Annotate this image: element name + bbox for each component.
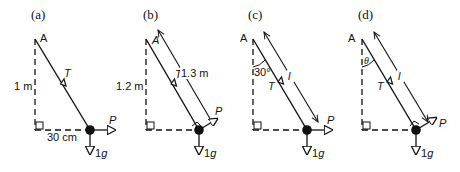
vertical-length-label: 1.2 m (116, 80, 144, 92)
weight-label: 1g (95, 147, 108, 159)
vertical-length-label: 1 m (14, 80, 32, 92)
panel-label: (a) (31, 7, 45, 22)
force-label: P (439, 117, 447, 129)
pendulum-diagrams: (a) A T 1 m 30 cm P 1g (b) A T 1.2 m 1.3… (0, 0, 460, 172)
tension-label: T (64, 67, 72, 79)
bob (194, 125, 204, 135)
pivot-label: A (240, 32, 248, 44)
right-angle-marker (147, 122, 154, 129)
bob (302, 125, 312, 135)
force-label: P (327, 114, 335, 126)
tension-label: T (377, 80, 385, 92)
panel-c: (c) A 30° T l P 1g (240, 7, 335, 159)
bob (411, 125, 421, 135)
right-angle-marker (254, 122, 261, 129)
weight-label: 1g (421, 147, 434, 159)
pivot-label: A (40, 32, 48, 44)
horizontal-length-label: 30 cm (47, 131, 77, 143)
panel-label: (d) (358, 7, 373, 22)
right-angle-marker (36, 122, 43, 129)
tension-arrow-icon (61, 79, 67, 86)
panel-label: (c) (248, 7, 262, 22)
panel-label: (b) (143, 7, 158, 22)
weight-label: 1g (204, 147, 217, 159)
string (362, 39, 416, 130)
string (253, 39, 307, 130)
angle-label: θ (364, 55, 369, 66)
force-label: P (215, 105, 223, 117)
pivot-label: A (348, 32, 356, 44)
force-label: P (109, 114, 117, 126)
string-length-label: 1.3 m (181, 67, 209, 79)
right-angle-marker (363, 122, 370, 129)
tension-arrow-icon (171, 79, 177, 86)
weight-label: 1g (312, 147, 325, 159)
panel-a: (a) A T 1 m 30 cm P 1g (14, 7, 117, 159)
panel-b: (b) A T 1.2 m 1.3 m P 1g (116, 7, 223, 159)
pivot-label: A (151, 34, 159, 46)
bob (85, 125, 95, 135)
angle-label: 30° (254, 66, 271, 78)
panel-d: (d) A θ T l P 1g (348, 7, 447, 159)
tension-label: T (268, 80, 276, 92)
